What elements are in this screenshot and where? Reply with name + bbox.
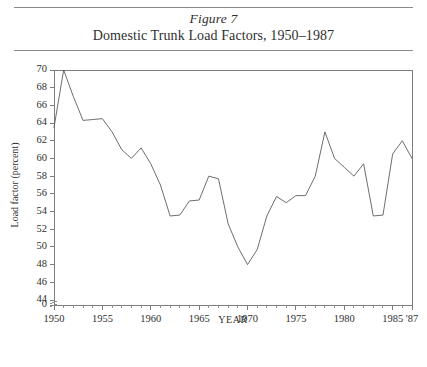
x-tick-label: 1985 [382,313,403,324]
x-tick-label: '87 [406,313,418,324]
header-rule-top [14,7,413,8]
y-axis-title: Load factor (percent) [9,143,21,228]
plot-frame [54,70,412,305]
y-tick-label: 60 [37,152,48,163]
y-tick-label: 48 [37,258,48,269]
line-chart: 44464850525456586062646668700 1950195519… [0,55,427,367]
header-rule-bottom [14,50,413,51]
x-axis-title: YEAR [218,314,248,325]
load-factor-line [54,70,412,265]
x-tick-label: 1975 [285,313,306,324]
y-tick-label: 70 [37,63,48,74]
figure-page: Figure 7 Domestic Trunk Load Factors, 19… [0,0,427,367]
data-series-group [54,70,412,265]
y-axis-ticks: 44464850525456586062646668700 [37,63,55,309]
y-tick-label: 46 [37,276,48,287]
x-tick-label: 1955 [92,313,113,324]
y-tick-label: 64 [37,116,48,127]
y-tick-label: 66 [37,99,48,110]
y-tick-label: 56 [37,187,48,198]
y-tick-label: 62 [37,134,48,145]
figure-number: Figure 7 [0,11,427,27]
y-tick-label-zero: 0 [42,298,47,309]
x-tick-label: 1950 [44,313,65,324]
y-tick-label: 54 [37,205,48,216]
figure-title: Domestic Trunk Load Factors, 1950–1987 [0,28,427,44]
y-tick-label: 52 [37,223,48,234]
y-tick-label: 50 [37,240,48,251]
x-tick-label: 1960 [140,313,161,324]
y-tick-label: 68 [37,81,48,92]
chart-container: 44464850525456586062646668700 1950195519… [0,55,427,367]
y-tick-label: 58 [37,170,48,181]
x-tick-label: 1965 [189,313,210,324]
x-tick-label: 1980 [334,313,355,324]
